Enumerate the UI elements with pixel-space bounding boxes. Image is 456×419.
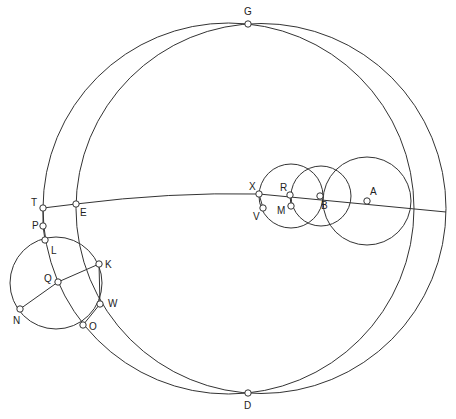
- label-L: L: [51, 245, 57, 256]
- label-O: O: [89, 321, 97, 332]
- point-N: [17, 306, 23, 312]
- label-W: W: [108, 298, 118, 309]
- point-E: [73, 201, 79, 207]
- labels-layer: GDTEPLKQNWOXVRMBA: [13, 6, 377, 411]
- point-W: [97, 301, 103, 307]
- points-layer: [17, 21, 370, 396]
- label-R: R: [280, 182, 287, 193]
- label-M: M: [277, 205, 285, 216]
- point-G: [245, 21, 251, 27]
- point-V: [260, 205, 266, 211]
- circles-layer: [10, 23, 446, 394]
- label-T: T: [31, 197, 37, 208]
- label-G: G: [244, 6, 252, 17]
- label-A: A: [370, 186, 377, 197]
- label-N: N: [13, 315, 20, 326]
- label-Q: Q: [44, 273, 52, 284]
- circle-big-left: [43, 23, 414, 394]
- point-R: [287, 192, 293, 198]
- label-E: E: [80, 207, 87, 218]
- label-X: X: [249, 181, 256, 192]
- label-V: V: [253, 211, 260, 222]
- geometric-diagram: GDTEPLKQNWOXVRMBA: [0, 0, 456, 419]
- point-D: [245, 390, 251, 396]
- point-P: [40, 223, 46, 229]
- point-X: [256, 191, 262, 197]
- label-B: B: [321, 200, 328, 211]
- point-L: [42, 237, 48, 243]
- point-M: [288, 203, 294, 209]
- label-D: D: [244, 400, 251, 411]
- point-Q: [55, 279, 61, 285]
- label-P: P: [32, 220, 39, 231]
- point-T: [40, 205, 46, 211]
- point-O: [80, 322, 86, 328]
- label-K: K: [105, 259, 112, 270]
- line-TE: [43, 204, 76, 208]
- point-K: [96, 261, 102, 267]
- point-A: [364, 198, 370, 204]
- point-B: [317, 193, 323, 199]
